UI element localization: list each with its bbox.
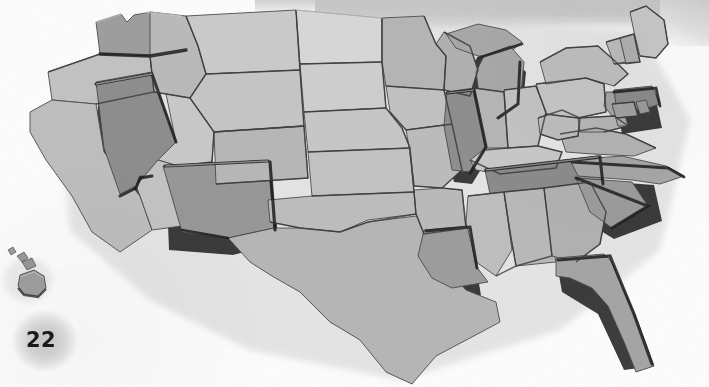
page-number: 22 [26, 326, 66, 354]
state-colorado [214, 126, 308, 184]
state-kansas [308, 148, 414, 196]
us-relief-map-photo [0, 0, 709, 387]
hawaii-islands [4, 247, 52, 302]
state-north-dakota [296, 10, 382, 64]
book-page: 22 [0, 0, 709, 387]
state-south-dakota [300, 62, 386, 112]
